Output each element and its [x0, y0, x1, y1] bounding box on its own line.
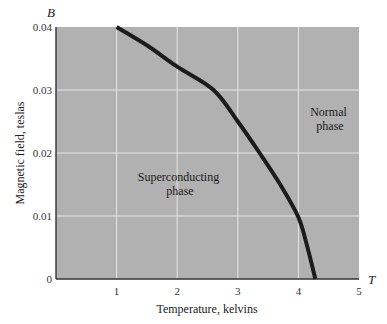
y-tick-label: 0.04	[33, 21, 53, 33]
x-axis-title: Temperature, kelvins	[156, 302, 257, 316]
x-tick-label: 3	[235, 285, 241, 297]
x-tick-labels: 12345	[114, 285, 362, 297]
x-tick-label: 2	[174, 285, 180, 297]
x-axis-symbol: T	[368, 272, 376, 287]
y-axis-symbol: B	[47, 5, 55, 20]
y-tick-label: 0.03	[33, 84, 53, 96]
y-tick-label: 0.01	[33, 210, 52, 222]
normal-label-line2: phase	[316, 119, 343, 133]
phase-diagram-chart: 00.010.020.030.04 12345 B T Magnetic fie…	[0, 0, 387, 324]
x-tick-label: 4	[296, 285, 302, 297]
y-axis-title: Magnetic field, teslas	[13, 101, 27, 204]
normal-label-line1: Normal	[310, 105, 347, 119]
x-tick-label: 5	[356, 285, 362, 297]
y-tick-label: 0.02	[33, 147, 52, 159]
superconducting-label-line1: Superconducting	[138, 170, 219, 184]
y-tick-labels: 00.010.020.030.04	[33, 21, 53, 285]
x-tick-label: 1	[114, 285, 120, 297]
superconducting-label-line2: phase	[166, 184, 193, 198]
y-tick-label: 0	[47, 273, 53, 285]
